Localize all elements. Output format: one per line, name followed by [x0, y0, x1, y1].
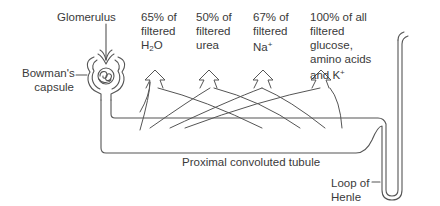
k-symbol: and K [310, 69, 340, 81]
h2o-formula: H2O [141, 38, 177, 56]
k-charge: + [340, 68, 345, 77]
glucose-name: glucose, [310, 38, 371, 52]
reabsorption-label-na: 67% of filtered Na+ [253, 10, 289, 54]
na-symbol: Na [253, 41, 268, 53]
reabsorption-arrows [145, 70, 331, 88]
glomerulus-coil [98, 68, 114, 84]
glucose-percent: 100% of all [310, 10, 371, 24]
h2o-filtered: filtered [141, 24, 177, 38]
na-formula: Na+ [253, 38, 289, 54]
arrow-h2o [145, 70, 165, 88]
reabsorption-label-glucose: 100% of all filtered glucose, amino acid… [310, 10, 371, 82]
na-filtered: filtered [253, 24, 289, 38]
loop-of-henle-label: Loop of Henle [331, 176, 369, 204]
h2o-o: O [154, 39, 163, 51]
arrow-urea [199, 70, 219, 88]
loop-label-line2: Henle [331, 190, 369, 204]
amino-acids-name: amino acids [310, 52, 371, 66]
bowmans-capsule-label: Bowman's capsule [22, 66, 74, 94]
reabsorption-label-h2o: 65% of filtered H2O [141, 10, 177, 56]
reabsorption-label-urea: 50% of filtered urea [196, 10, 232, 52]
bowmans-label-line1: Bowman's [22, 66, 74, 80]
k-formula: and K+ [310, 66, 371, 82]
na-percent: 67% of [253, 10, 289, 24]
na-charge: + [268, 40, 273, 49]
glucose-filtered: filtered [310, 24, 371, 38]
arrow-na [253, 70, 273, 88]
h2o-percent: 65% of [141, 10, 177, 24]
reabsorption-flows [140, 82, 342, 130]
loop-label-line1: Loop of [331, 176, 369, 190]
urea-percent: 50% of [196, 10, 232, 24]
urea-filtered: filtered [196, 24, 232, 38]
proximal-tubule-label: Proximal convoluted tubule [182, 155, 320, 169]
glomerulus-label: Glomerulus [57, 10, 116, 24]
bowmans-label-line2: capsule [22, 80, 74, 94]
urea-name: urea [196, 38, 232, 52]
